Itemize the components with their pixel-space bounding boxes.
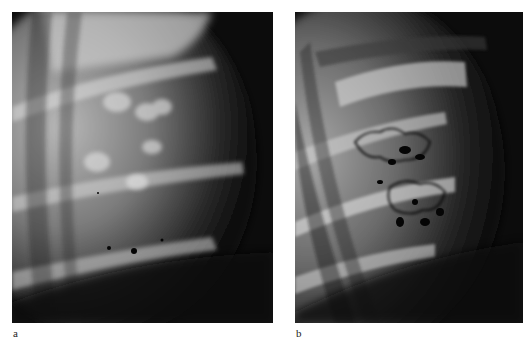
- xray-image-b: [295, 12, 523, 323]
- panel-label-a: a: [13, 327, 18, 339]
- radiograph-panel-b: [295, 12, 523, 323]
- radiograph-panel-a: [12, 12, 273, 323]
- xray-image-a: [12, 12, 273, 323]
- panel-label-b: b: [296, 327, 302, 339]
